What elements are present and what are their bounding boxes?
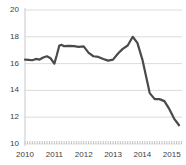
- y-tick-label-18: 18: [3, 32, 19, 41]
- line-chart: 201816141210 201020112012201320142015: [0, 0, 186, 165]
- y-tick-label-16: 16: [3, 59, 19, 68]
- data-line-series-1: [25, 37, 179, 125]
- x-tick-label-2013: 2013: [101, 150, 125, 159]
- x-tick-label-2012: 2012: [72, 150, 96, 159]
- y-tick-label-10: 10: [3, 139, 19, 148]
- x-tick-label-2011: 2011: [42, 150, 66, 159]
- gridlines: [25, 10, 182, 144]
- x-tick-label-2010: 2010: [13, 150, 37, 159]
- x-tick-label-2015: 2015: [160, 150, 184, 159]
- chart-plot-area: [0, 0, 186, 165]
- y-tick-label-20: 20: [3, 5, 19, 14]
- y-tick-label-14: 14: [3, 85, 19, 94]
- x-tick-label-2014: 2014: [130, 150, 154, 159]
- y-tick-label-12: 12: [3, 112, 19, 121]
